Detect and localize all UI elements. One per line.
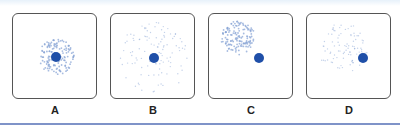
scatter-cloud	[307, 14, 390, 98]
panel-b	[110, 13, 195, 99]
scatter-cloud	[209, 14, 292, 98]
bottom-rule	[0, 123, 400, 125]
panel-label-b: B	[110, 104, 196, 116]
target-dot	[358, 53, 368, 63]
target-dot	[254, 53, 264, 63]
panel-c	[208, 13, 293, 99]
panel-label-d: D	[306, 104, 392, 116]
panel-d	[306, 13, 391, 99]
target-dot	[51, 52, 61, 62]
panel-label-a: A	[12, 104, 98, 116]
top-band	[0, 0, 400, 6]
panel-label-c: C	[208, 104, 294, 116]
scatter-cloud	[13, 14, 96, 98]
panel-a	[12, 13, 97, 99]
target-dot	[149, 53, 159, 63]
scatter-cloud	[111, 14, 194, 98]
